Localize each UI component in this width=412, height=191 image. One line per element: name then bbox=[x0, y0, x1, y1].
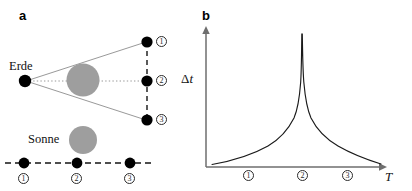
y-axis-arrowhead bbox=[202, 26, 209, 34]
lens-disc bbox=[67, 64, 100, 97]
source-marker-3 bbox=[125, 158, 136, 169]
source-marker-label-2: 2 bbox=[71, 173, 82, 184]
x-tick-label-1: 1 bbox=[243, 170, 254, 181]
y-axis-label: Δt bbox=[181, 72, 193, 85]
image-marker-1 bbox=[141, 36, 152, 47]
x-tick-label-2: 2 bbox=[297, 170, 308, 181]
figure-root: a b bbox=[0, 0, 412, 191]
sun-label: Sonne bbox=[28, 133, 59, 146]
sun-disc bbox=[69, 126, 97, 154]
x-axis-label: T bbox=[385, 170, 392, 183]
panel-b-chart bbox=[202, 26, 387, 171]
source-marker-2 bbox=[72, 158, 83, 169]
panel-a-diagram bbox=[5, 36, 153, 168]
earth-marker bbox=[19, 75, 31, 87]
image-marker-label-2: 2 bbox=[156, 75, 167, 86]
figure-drawing bbox=[0, 0, 412, 191]
source-marker-label-1: 1 bbox=[18, 173, 29, 184]
earth-label: Erde bbox=[9, 60, 33, 73]
source-marker-1 bbox=[19, 158, 30, 169]
time-delay-curve bbox=[212, 34, 381, 165]
image-marker-3 bbox=[141, 114, 152, 125]
image-marker-label-1: 1 bbox=[156, 36, 167, 47]
image-marker-label-3: 3 bbox=[156, 114, 167, 125]
y-axis-label-t: t bbox=[189, 71, 193, 86]
image-marker-2 bbox=[141, 75, 152, 86]
source-marker-label-3: 3 bbox=[124, 173, 135, 184]
x-tick-label-3: 3 bbox=[342, 170, 353, 181]
